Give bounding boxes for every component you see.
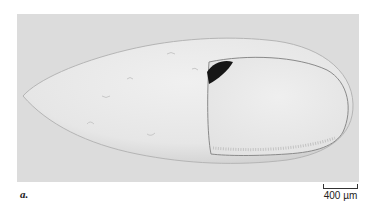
egg-illustration bbox=[17, 14, 359, 182]
scale-bar: 400 µm bbox=[322, 184, 359, 201]
panel-label: a. bbox=[20, 188, 28, 200]
scale-bar-line bbox=[323, 184, 358, 189]
micrograph-panel bbox=[17, 14, 359, 182]
scale-bar-label: 400 µm bbox=[322, 190, 359, 201]
inner-chamber bbox=[208, 57, 349, 155]
